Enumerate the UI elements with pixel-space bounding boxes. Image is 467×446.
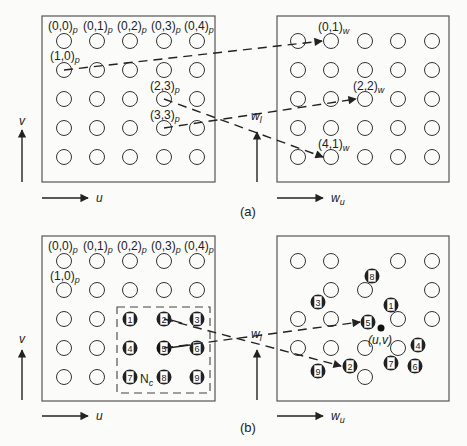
label-1-0-p-b: (1,0)p xyxy=(50,269,80,285)
axes-uv-a xyxy=(22,130,88,198)
label-3-3-p: (3,3)p xyxy=(150,108,180,124)
svg-text:5: 5 xyxy=(366,318,371,328)
input-grid-labels-a: (0,0)p (0,1)p (0,2)p (0,3)p (0,4)p (1,0)… xyxy=(48,19,214,124)
svg-text:4: 4 xyxy=(416,341,421,351)
svg-text:8: 8 xyxy=(162,373,167,383)
warped-point-3: 3 xyxy=(311,295,326,310)
figure-canvas: (0,0)p (0,1)p (0,2)p (0,3)p (0,4)p (1,0)… xyxy=(0,0,467,446)
axes-w-a xyxy=(257,132,323,198)
warped-grid-box-a xyxy=(277,16,449,182)
neighborhood-points: 1 2 3 4 5 6 7 8 9 xyxy=(123,312,205,385)
v-axis-label-b: v xyxy=(19,332,26,346)
cut-off-caption-text xyxy=(40,436,440,446)
svg-text:5: 5 xyxy=(162,344,167,354)
warped-grid-circles-a xyxy=(291,34,440,165)
warped-point-2: 2 xyxy=(343,359,358,374)
svg-text:1: 1 xyxy=(389,301,394,311)
label-0-4-p-b: (0,4)p xyxy=(184,239,214,255)
neighbor-3: 3 xyxy=(190,312,205,327)
svg-text:6: 6 xyxy=(195,344,200,354)
warped-point-1: 1 xyxy=(384,298,399,313)
label-1-0-p: (1,0)p xyxy=(50,49,80,65)
label-0-0-p: (0,0)p xyxy=(48,19,78,35)
u-axis-label-b: u xyxy=(96,409,103,423)
svg-text:9: 9 xyxy=(195,373,200,383)
label-0-3-p: (0,3)p xyxy=(151,19,181,35)
neighbor-1: 1 xyxy=(123,312,138,327)
warped-point-9: 9 xyxy=(311,364,326,379)
label-0-4-p: (0,4)p xyxy=(184,19,214,35)
neighbor-8: 8 xyxy=(157,370,172,385)
svg-text:4: 4 xyxy=(128,344,133,354)
svg-text:8: 8 xyxy=(370,272,375,282)
svg-text:7: 7 xyxy=(128,373,133,383)
warped-point-6: 6 xyxy=(408,359,423,374)
v-axis-label: v xyxy=(19,114,26,128)
wl-axis-label: wl xyxy=(251,109,263,125)
u-axis-label: u xyxy=(96,191,103,205)
mapping-arrows-a xyxy=(64,41,356,157)
warped-point-8: 8 xyxy=(365,269,380,284)
label-2-3-p: (2,3)p xyxy=(150,79,180,95)
wu-axis-label-b: wu xyxy=(331,409,345,425)
svg-text:9: 9 xyxy=(316,367,321,377)
svg-text:6: 6 xyxy=(413,362,418,372)
caption-b: (b) xyxy=(240,420,256,435)
neighbor-7: 7 xyxy=(123,370,138,385)
warped-point-4: 4 xyxy=(411,338,426,353)
label-0-2-p: (0,2)p xyxy=(117,19,147,35)
axes-w-b xyxy=(257,350,323,416)
wl-axis-label-b: wl xyxy=(251,327,263,343)
label-0-3-p-b: (0,3)p xyxy=(151,239,181,255)
label-0-1-w: (0,1)w xyxy=(318,20,350,36)
sample-point-label: (u,v) xyxy=(368,333,392,347)
sample-point-uv xyxy=(378,325,385,332)
svg-text:3: 3 xyxy=(316,298,321,308)
label-0-1-p: (0,1)p xyxy=(83,19,113,35)
label-0-1-p-b: (0,1)p xyxy=(83,239,113,255)
axes-uv-b xyxy=(22,350,88,416)
svg-text:2: 2 xyxy=(348,362,353,372)
panel-b: 1 2 3 4 5 6 7 8 9 Nc (0,0)p (0,1)p (0,2)… xyxy=(19,236,449,435)
label-0-2-p-b: (0,2)p xyxy=(117,239,147,255)
input-grid-circles-a xyxy=(57,34,205,165)
label-2-2-w: (2,2)w xyxy=(353,79,385,95)
neighbor-9: 9 xyxy=(190,370,205,385)
svg-text:7: 7 xyxy=(389,359,394,369)
warped-grid-labels-a: (0,1)w (2,2)w (4,1)w xyxy=(318,20,385,153)
neighbor-4: 4 xyxy=(123,341,138,356)
input-grid-labels-b: (0,0)p (0,1)p (0,2)p (0,3)p (0,4)p (1,0)… xyxy=(48,239,214,285)
warped-point-5: 5 xyxy=(361,315,376,330)
warped-point-7: 7 xyxy=(384,356,399,371)
wu-axis-label: wu xyxy=(331,191,345,207)
label-0-0-p-b: (0,0)p xyxy=(48,239,78,255)
caption-a: (a) xyxy=(240,204,256,219)
neighborhood-label: Nc xyxy=(140,372,154,388)
panel-a: (0,0)p (0,1)p (0,2)p (0,3)p (0,4)p (1,0)… xyxy=(19,16,449,219)
svg-text:1: 1 xyxy=(128,315,133,325)
label-4-1-w: (4,1)w xyxy=(318,137,350,153)
svg-text:3: 3 xyxy=(195,315,200,325)
